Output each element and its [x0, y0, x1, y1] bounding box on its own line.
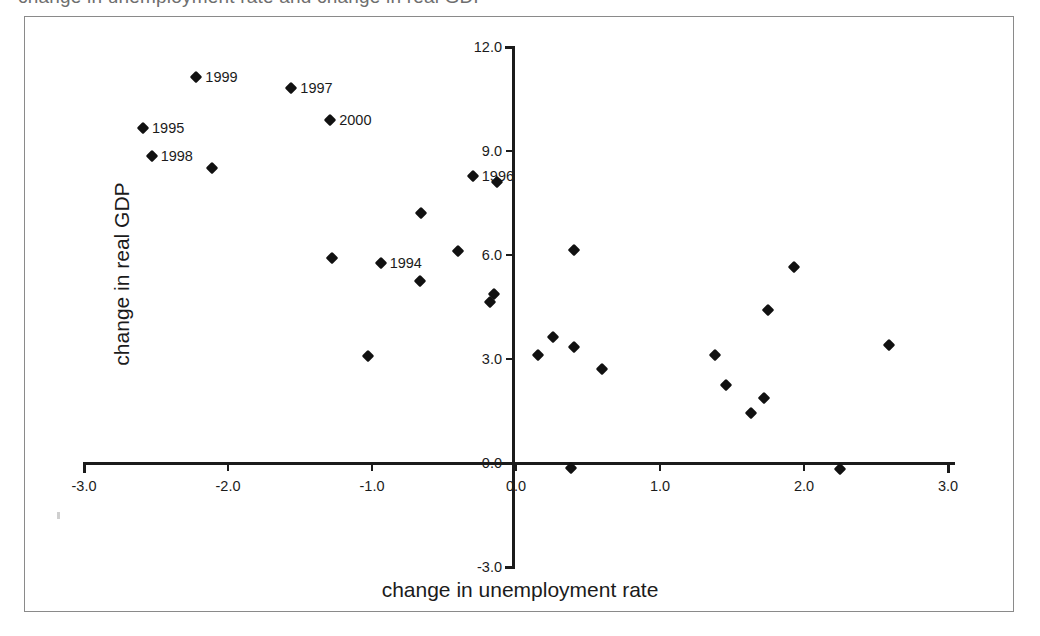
- data-point: [466, 170, 479, 183]
- y-tick-mark: [506, 150, 513, 152]
- y-tick-label: -3.0: [458, 559, 502, 575]
- x-tick-mark: [227, 465, 229, 471]
- x-tick-mark: [515, 465, 517, 471]
- x-tick-label: 0.0: [506, 478, 526, 494]
- y-tick-label: 6.0: [458, 247, 502, 263]
- y-tick-label: 3.0: [458, 351, 502, 367]
- x-tick-mark: [803, 465, 805, 471]
- data-point-label: 1999: [205, 69, 237, 85]
- y-tick-mark: [506, 462, 513, 464]
- data-point-label: 2000: [339, 112, 371, 128]
- data-point: [762, 304, 775, 317]
- data-point: [325, 251, 338, 264]
- scan-artifact-speck: [57, 512, 60, 519]
- x-tick-label: -1.0: [360, 478, 385, 494]
- data-point: [757, 391, 770, 404]
- data-point: [567, 243, 580, 256]
- data-point: [361, 350, 374, 363]
- data-point: [531, 349, 544, 362]
- data-point: [374, 257, 387, 270]
- data-point: [206, 162, 219, 175]
- x-tick-label: 3.0: [938, 478, 958, 494]
- y-axis-title: change in real GDP: [110, 124, 134, 424]
- y-tick-mark: [505, 46, 515, 49]
- data-point-label: 1998: [161, 148, 193, 164]
- x-tick-mark: [371, 465, 373, 471]
- data-point: [596, 362, 609, 375]
- x-tick-label: -3.0: [72, 478, 97, 494]
- data-point: [708, 348, 721, 361]
- y-tick-mark: [505, 566, 515, 569]
- data-point: [567, 341, 580, 354]
- y-tick-mark: [506, 358, 513, 360]
- x-axis-line: [84, 462, 955, 465]
- x-tick-label: -2.0: [216, 478, 241, 494]
- data-point-label: 1997: [300, 80, 332, 96]
- x-tick-mark: [83, 462, 86, 473]
- data-point: [413, 274, 426, 287]
- data-point: [883, 339, 896, 352]
- data-point: [744, 406, 757, 419]
- x-tick-mark: [947, 462, 950, 473]
- data-point: [285, 82, 298, 95]
- y-tick-label: 9.0: [458, 143, 502, 159]
- x-tick-mark: [659, 465, 661, 471]
- x-tick-label: 2.0: [794, 478, 814, 494]
- y-tick-label: 12.0: [458, 39, 502, 55]
- y-tick-mark: [506, 254, 513, 256]
- data-point: [415, 207, 428, 220]
- data-point: [720, 379, 733, 392]
- x-axis-title: change in unemployment rate: [0, 578, 1040, 602]
- data-point-label: 1994: [390, 255, 422, 271]
- data-point: [788, 261, 801, 274]
- x-tick-label: 1.0: [650, 478, 670, 494]
- y-tick-label: 0.0: [458, 455, 502, 471]
- data-point: [145, 150, 158, 163]
- data-point: [324, 114, 337, 127]
- data-point: [137, 122, 150, 135]
- data-point: [547, 331, 560, 344]
- data-point-label: 1995: [152, 120, 184, 136]
- scatter-plot: -3.0-2.0-1.00.01.02.03.0 -3.00.03.06.09.…: [0, 0, 1040, 636]
- data-point: [190, 71, 203, 84]
